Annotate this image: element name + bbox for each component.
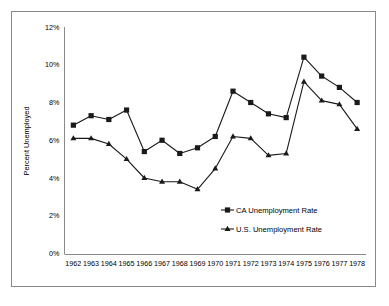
data-point-square <box>89 113 94 118</box>
y-tick-label: 0% <box>49 249 60 258</box>
data-point-triangle <box>212 165 218 170</box>
data-point-square <box>284 115 289 120</box>
legend-item: U.S. Unemployment Rate <box>221 225 322 234</box>
x-tick-label: 1975 <box>296 259 312 268</box>
data-point-square <box>195 145 200 150</box>
x-tick-label: 1962 <box>65 259 81 268</box>
data-point-square <box>337 85 342 90</box>
data-point-square <box>159 138 164 143</box>
data-point-square <box>266 111 271 116</box>
y-tick-label: 8% <box>49 98 60 107</box>
legend-item: CA Unemployment Rate <box>221 206 317 215</box>
y-tick-label: 2% <box>49 211 60 220</box>
data-point-square <box>213 134 218 139</box>
data-point-square <box>71 123 76 128</box>
series-ca <box>71 55 360 156</box>
x-tick-label: 1976 <box>314 259 330 268</box>
data-series-group <box>70 55 360 192</box>
data-point-square <box>301 55 306 60</box>
x-tick-label: 1963 <box>83 259 99 268</box>
data-point-square <box>248 100 253 105</box>
x-tick-label-group: 1962196319641965196619671968196919701971… <box>65 259 365 268</box>
legend-label: U.S. Unemployment Rate <box>236 225 322 234</box>
x-tick-label: 1974 <box>278 259 294 268</box>
data-point-triangle <box>301 79 307 84</box>
x-tick-label: 1969 <box>190 259 206 268</box>
data-point-square <box>106 117 111 122</box>
data-point-triangle <box>70 135 76 140</box>
x-tick-label: 1972 <box>243 259 259 268</box>
data-point-triangle <box>88 135 94 140</box>
data-point-triangle <box>225 226 231 231</box>
x-tick-label: 1973 <box>260 259 276 268</box>
x-tick-label: 1977 <box>331 259 347 268</box>
data-point-square <box>355 100 360 105</box>
y-tick-label: 10% <box>45 60 60 69</box>
y-tick-label: 6% <box>49 136 60 145</box>
data-point-square <box>230 89 235 94</box>
y-tick-label-group: 0%2%4%6%8%10%12% <box>45 23 60 259</box>
x-tick-label: 1978 <box>349 259 365 268</box>
x-tick-label: 1967 <box>154 259 170 268</box>
x-tick-label: 1968 <box>172 259 188 268</box>
x-tick-label: 1970 <box>207 259 223 268</box>
legend-label: CA Unemployment Rate <box>236 206 317 215</box>
data-point-square <box>319 73 324 78</box>
data-point-triangle <box>177 179 183 184</box>
data-point-square <box>142 149 147 154</box>
x-tick-label: 1966 <box>136 259 152 268</box>
y-axis-title: Percent Unemployed <box>22 106 31 175</box>
x-tick-label: 1965 <box>119 259 135 268</box>
screenshot-root: 0%2%4%6%8%10%12% 19621963196419651966196… <box>0 0 389 306</box>
unemployment-line-chart: 0%2%4%6%8%10%12% 19621963196419651966196… <box>0 0 389 306</box>
data-point-square <box>225 207 230 212</box>
data-point-square <box>124 107 129 112</box>
data-point-triangle <box>230 133 236 138</box>
y-tick-label: 4% <box>49 174 60 183</box>
chart-legend: CA Unemployment RateU.S. Unemployment Ra… <box>221 206 322 234</box>
data-point-square <box>177 151 182 156</box>
data-point-triangle <box>283 150 289 155</box>
x-tick-label: 1964 <box>101 259 117 268</box>
y-tick-label: 12% <box>45 23 60 32</box>
x-tick-label: 1971 <box>225 259 241 268</box>
